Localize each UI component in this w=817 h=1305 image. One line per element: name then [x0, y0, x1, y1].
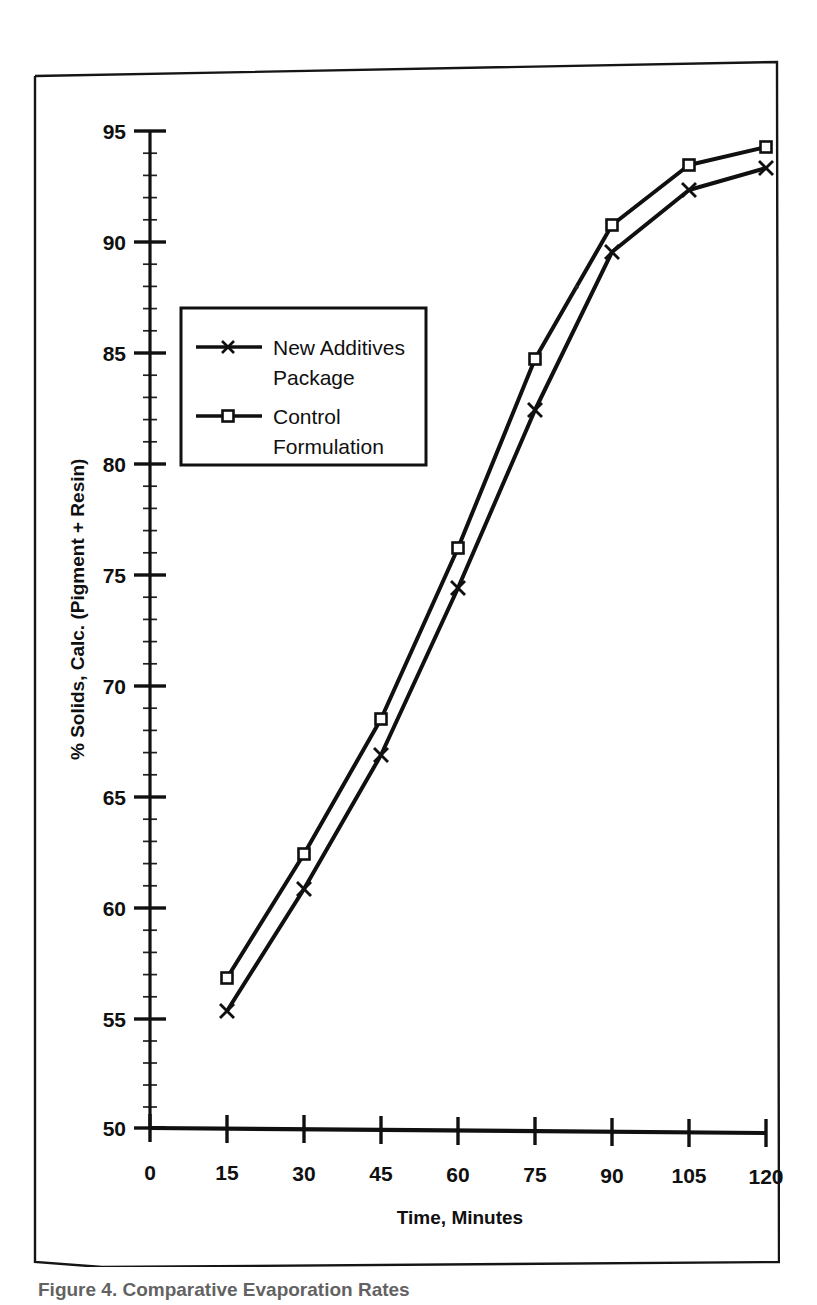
chart-legend: New Additives Package Control Formulatio… [181, 308, 426, 465]
y-axis-title: % Solids, Calc. (Pigment + Resin) [67, 459, 88, 760]
legend-label-line2: Package [273, 366, 355, 389]
series-control-formulation [222, 142, 772, 984]
figure-container: 95 90 85 80 75 70 65 60 55 50 % Solids, … [0, 0, 817, 1305]
x-tick-label: 90 [600, 1164, 623, 1187]
y-tick-label: 50 [103, 1117, 126, 1140]
y-tick-label: 90 [103, 231, 126, 254]
y-tick-label: 75 [103, 564, 127, 587]
y-tick-label: 95 [103, 120, 127, 143]
series-markers-new-additives [220, 161, 773, 1018]
series-new-additives-package [220, 161, 773, 1018]
y-tick-label: 85 [103, 342, 127, 365]
x-tick-label: 60 [446, 1163, 469, 1186]
square-marker-icon [223, 411, 234, 422]
series-markers-control [222, 142, 772, 984]
figure-caption-text: Figure 4. Comparative Evaporation Rates [38, 1283, 410, 1301]
legend-label-line1: New Additives [273, 336, 405, 359]
legend-label-line2: Formulation [273, 435, 384, 458]
x-axis-title: Time, Minutes [397, 1207, 523, 1228]
figure-caption: Figure 4. Comparative Evaporation Rates [0, 1283, 817, 1305]
x-tick-label: 15 [215, 1161, 239, 1184]
y-tick-label: 80 [103, 453, 126, 476]
x-tick-label: 120 [748, 1165, 783, 1188]
x-tick-label: 30 [292, 1162, 315, 1185]
x-axis: 0 15 30 45 60 75 90 105 120 Time, Minute… [144, 1114, 783, 1228]
x-tick-label: 0 [144, 1161, 156, 1184]
line-chart: 95 90 85 80 75 70 65 60 55 50 % Solids, … [0, 0, 817, 1305]
scan-speck [575, 285, 579, 289]
y-tick-label: 60 [103, 897, 126, 920]
x-tick-label: 105 [671, 1164, 706, 1187]
x-tick-label: 75 [523, 1163, 547, 1186]
x-tick-label: 45 [369, 1162, 393, 1185]
y-tick-label: 70 [103, 675, 126, 698]
y-tick-label: 55 [103, 1008, 127, 1031]
legend-label-line1: Control [273, 405, 341, 428]
y-tick-label: 65 [103, 786, 127, 809]
y-axis: 95 90 85 80 75 70 65 60 55 50 % Solids, … [67, 120, 166, 1140]
